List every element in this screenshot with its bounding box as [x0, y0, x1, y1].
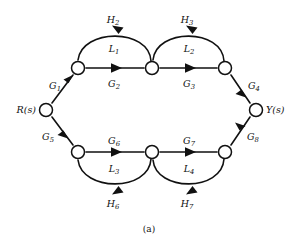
node-bottom-left[interactable] [72, 146, 85, 159]
label-l3: L3 [108, 163, 120, 176]
edge-g5 [52, 117, 73, 145]
signal-flow-graph-figure: H2 H3 L1 L2 G1 G2 G3 G4 G5 G6 [0, 0, 299, 250]
label-l1: L1 [108, 43, 120, 56]
label-g3: G3 [183, 78, 195, 91]
node-output-y[interactable] [250, 104, 263, 117]
edge-g2 [86, 63, 144, 72]
label-l4: L4 [183, 163, 195, 176]
label-g5: G5 [42, 131, 54, 144]
node-top-right[interactable] [219, 62, 232, 75]
label-h7: H7 [180, 198, 194, 211]
label-input-rs: R(s) [16, 104, 37, 115]
label-h3: H3 [180, 14, 194, 27]
label-l2: L2 [183, 43, 195, 56]
node-bottom-middle[interactable] [146, 146, 159, 159]
node-top-middle[interactable] [146, 62, 159, 75]
edge-g7 [160, 147, 217, 156]
node-bottom-right[interactable] [219, 146, 232, 159]
label-g7: G7 [183, 135, 196, 148]
label-g2: G2 [108, 78, 120, 91]
node-input-r[interactable] [40, 104, 53, 117]
node-top-left[interactable] [72, 62, 85, 75]
label-g8: G8 [247, 131, 260, 144]
label-g1: G1 [49, 80, 61, 93]
signal-flow-graph-canvas: H2 H3 L1 L2 G1 G2 G3 G4 G5 G6 [0, 0, 299, 250]
edge-g3 [160, 63, 217, 72]
label-g6: G6 [108, 135, 121, 148]
label-g4: G4 [248, 80, 260, 93]
edge-g6 [86, 147, 144, 156]
label-output-ys: Y(s) [266, 104, 285, 115]
label-h6: H6 [106, 198, 120, 211]
label-h2: H2 [106, 14, 120, 27]
figure-caption: (a) [143, 224, 155, 234]
